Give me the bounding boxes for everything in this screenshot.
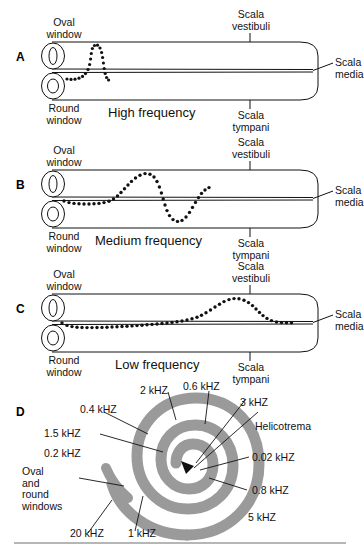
helicotrema-arrow-head [181, 461, 194, 474]
panel-c-round-window-label: Round window [34, 355, 94, 378]
panel-letter-d: D [16, 405, 25, 419]
panel-c-scala-tympani-line2: tympani [220, 374, 282, 386]
panel-c-scala-tympani-line1: Scala [220, 362, 282, 374]
panel-a-caption: High frequency [108, 105, 195, 120]
panel-b-scala-media-line1: Scala [335, 185, 364, 197]
panel-b-oval-window-label: Oval window [34, 145, 94, 168]
panel-a-scala-vestibuli-line2: vestibuli [220, 21, 282, 33]
panel-b-caption: Medium frequency [95, 233, 202, 248]
panel-a-wave [65, 44, 110, 82]
panel-c-scala-media-label: Scala media [335, 309, 364, 332]
panel-b-scala-media-line2: media [335, 197, 364, 209]
panel-b-oval-window-line2: window [34, 157, 94, 169]
panel-a-scala-tympani-label: Scala tympani [220, 110, 282, 133]
panel-a-round-window-label: Round window [34, 103, 94, 126]
panel-c-oval-window-line2: window [34, 281, 94, 293]
panel-a-oval-window-label: Oval window [34, 17, 94, 40]
panel-a-scala-media-label: Scala media [335, 57, 364, 80]
panel-a-duct [42, 33, 334, 109]
freq-label-0-2khz: 0.2 kHZ [44, 448, 81, 460]
panel-b-oval-window-line1: Oval [34, 145, 94, 157]
panel-a-scala-vestibuli-line1: Scala [220, 9, 282, 21]
panel-a-oval-window-line2: window [34, 29, 94, 41]
freq-label-1khz: 1 kHZ [128, 528, 156, 540]
freq-label-0-4khz: 0.4 kHZ [80, 404, 117, 416]
panel-c-oval-window-line1: Oval [34, 269, 94, 281]
panel-a-scala-media-line1: Scala [335, 57, 364, 69]
panel-c-scala-vestibuli-label: Scala vestibuli [220, 261, 282, 284]
panel-d-spiral [106, 398, 259, 535]
panel-a-oval-window-line1: Oval [34, 17, 94, 29]
panel-letter-b: B [16, 178, 25, 192]
panel-b-round-window-label: Round window [34, 231, 94, 254]
panel-b-scala-tympani-line1: Scala [220, 238, 282, 250]
panel-b-duct [42, 161, 334, 237]
panel-c-duct [42, 285, 334, 361]
panel-a-round-window-line2: window [34, 115, 94, 127]
panel-letter-a: A [16, 50, 25, 64]
panel-c-oval-window-label: Oval window [34, 269, 94, 292]
panel-b-scala-vestibuli-line1: Scala [220, 137, 282, 149]
panel-b-scala-tympani-label: Scala tympani [220, 238, 282, 261]
windows-label-line3: round [22, 489, 62, 501]
panel-a-round-window-line1: Round [34, 103, 94, 115]
panel-a-scala-tympani-line2: tympani [220, 122, 282, 134]
panel-c-scala-vestibuli-line1: Scala [220, 261, 282, 273]
freq-label-0-02khz: 0.02 kHZ [252, 452, 295, 464]
panel-b-round-window-line1: Round [34, 231, 94, 243]
panel-c-round-window-line2: window [34, 367, 94, 379]
freq-label-20khz: 20 kHZ [70, 528, 104, 540]
panel-letter-c: C [16, 302, 25, 316]
panel-b-scala-media-label: Scala media [335, 185, 364, 208]
panel-b-round-window-line2: window [34, 243, 94, 255]
panel-c-caption: Low frequency [115, 357, 200, 372]
panel-c-scala-vestibuli-line2: vestibuli [220, 273, 282, 285]
freq-label-3khz: 3 kHZ [240, 397, 268, 409]
panel-a-scala-media-line2: media [335, 69, 364, 81]
windows-label-line1: Oval [22, 466, 62, 478]
panel-c-scala-media-line1: Scala [335, 309, 364, 321]
panel-b-scala-vestibuli-label: Scala vestibuli [220, 137, 282, 160]
freq-label-0-8khz: 0.8 kHZ [252, 485, 289, 497]
helicotrema-label: Helicotrema [255, 421, 311, 433]
freq-label-2khz: 2 kHZ [140, 385, 168, 397]
freq-label-1-5khz: 1.5 kHZ [44, 428, 81, 440]
panel-c-round-window-line1: Round [34, 355, 94, 367]
panel-a-scala-vestibuli-label: Scala vestibuli [220, 9, 282, 32]
panel-c-scala-media-line2: media [335, 321, 364, 333]
panel-c-scala-tympani-label: Scala tympani [220, 362, 282, 385]
panel-b-scala-vestibuli-line2: vestibuli [220, 149, 282, 161]
cochlear-spiral-band [137, 398, 259, 535]
windows-label-line4: windows [22, 501, 62, 513]
oval-and-round-windows-label: Oval and round windows [22, 466, 62, 512]
panel-a-scala-tympani-line1: Scala [220, 110, 282, 122]
freq-label-5khz: 5 kHZ [248, 512, 276, 524]
freq-label-0-6khz: 0.6 kHZ [183, 381, 220, 393]
